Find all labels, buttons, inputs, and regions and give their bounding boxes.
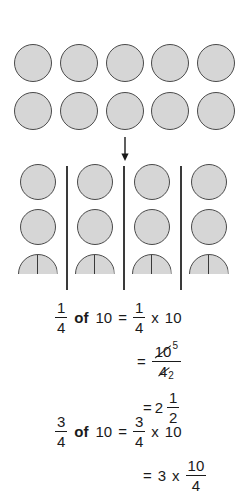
fraction-numerator: 1	[55, 300, 67, 315]
cancelled-fraction: 10 5 4 2	[152, 344, 181, 379]
half-circle-midline	[94, 255, 96, 274]
grouped-circles-section	[0, 164, 249, 290]
equation-line-4: 3 4 of 10 = 3 4 x 10	[52, 414, 185, 449]
multiply-sign: x	[151, 424, 159, 439]
arrow-down-icon	[118, 137, 132, 161]
fraction-bar	[55, 317, 67, 318]
half-circle	[75, 254, 115, 275]
multiplicand-value: 10	[165, 424, 182, 439]
equation-line-5: = 3 x 10 4	[140, 458, 209, 493]
fraction-denominator: 4	[133, 434, 145, 449]
whole-circle	[151, 92, 189, 130]
multiply-sign: x	[151, 310, 159, 325]
fraction-denominator: 4	[55, 434, 67, 449]
whole-circle	[197, 44, 235, 82]
fraction-bar	[133, 431, 145, 432]
whole-circle	[60, 92, 98, 130]
fraction-one-quarter: 1 4	[133, 300, 145, 335]
whole-circle	[14, 92, 52, 130]
fraction-denominator: 4	[55, 320, 67, 335]
whole-circle	[77, 164, 113, 200]
whole-circle	[20, 164, 56, 200]
numerator-reduced: 5	[172, 341, 178, 351]
whole-circle	[134, 209, 170, 245]
multiply-sign: x	[172, 468, 180, 483]
fraction-numerator: 3	[55, 414, 67, 429]
fraction-bar	[152, 361, 181, 362]
half-circle	[18, 254, 58, 275]
quarter-group	[66, 164, 123, 275]
whole-circle	[191, 164, 227, 200]
fraction-numerator: 10	[186, 458, 207, 473]
equals-sign: =	[118, 424, 127, 439]
circle-row-top	[14, 44, 235, 82]
denominator-reduced: 2	[168, 371, 174, 381]
factor-value: 3	[158, 468, 166, 483]
operand-value: 10	[96, 310, 113, 325]
mixed-whole-part: 2	[155, 400, 163, 415]
equals-sign: =	[137, 354, 146, 369]
cancelled-numerator: 10 5	[152, 344, 181, 359]
fraction-bar	[133, 317, 145, 318]
equals-sign: =	[143, 400, 152, 415]
fraction-bar	[55, 431, 67, 432]
whole-circle	[14, 44, 52, 82]
cancelled-denominator: 4 2	[156, 364, 177, 379]
fraction-numerator: 1	[133, 300, 145, 315]
half-circle	[189, 254, 229, 275]
equation-line-2: = 10 5 4 2	[134, 344, 184, 379]
whole-circle	[151, 44, 189, 82]
fraction-numerator: 1	[167, 390, 179, 405]
fraction-three-quarters: 3 4	[55, 414, 67, 449]
fraction-bar	[186, 475, 207, 476]
half-circle-midline	[151, 255, 153, 274]
whole-circle	[197, 92, 235, 130]
fraction-one-quarter: 1 4	[55, 300, 67, 335]
equation-line-1: 1 4 of 10 = 1 4 x 10	[52, 300, 185, 335]
equals-sign: =	[118, 310, 127, 325]
whole-circle	[106, 92, 144, 130]
whole-circle	[60, 44, 98, 82]
half-circle	[132, 254, 172, 275]
fraction-denominator: 4	[190, 478, 202, 493]
quarter-group	[9, 164, 66, 275]
half-circle-midline	[208, 255, 210, 274]
fraction-bar	[167, 407, 179, 408]
half-circle-midline	[37, 255, 39, 274]
fraction-three-quarters: 3 4	[133, 414, 145, 449]
whole-circle	[106, 44, 144, 82]
quarter-group	[123, 164, 180, 275]
quarter-group	[180, 164, 237, 275]
of-keyword: of	[74, 424, 88, 439]
fraction-numerator: 3	[133, 414, 145, 429]
circle-row-bottom	[14, 92, 235, 130]
whole-circle	[134, 164, 170, 200]
operand-value: 10	[96, 424, 113, 439]
whole-circle	[20, 209, 56, 245]
fraction-ten-quarters: 10 4	[186, 458, 207, 493]
whole-circle	[191, 209, 227, 245]
multiplicand-value: 10	[165, 310, 182, 325]
whole-circle	[77, 209, 113, 245]
of-keyword: of	[74, 310, 88, 325]
fraction-denominator: 4	[133, 320, 145, 335]
equals-sign: =	[143, 468, 152, 483]
